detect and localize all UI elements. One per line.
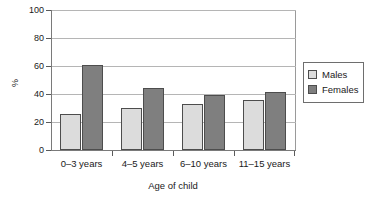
x-axis-tick-labels: 0–3 years4–5 years6–10 years11–15 years (45, 158, 301, 172)
bar-females-2[interactable] (204, 95, 225, 150)
legend-label-males: Males (322, 69, 347, 80)
legend-label-females: Females (322, 84, 358, 95)
bar-females-3[interactable] (265, 92, 286, 150)
y-axis-tick-label: 20 (18, 118, 44, 127)
bar-group (113, 10, 174, 150)
bar-males-2[interactable] (182, 104, 203, 150)
bar-males-0[interactable] (60, 114, 81, 150)
bar-males-1[interactable] (121, 108, 142, 150)
y-axis-tick-label: 100 (18, 6, 44, 15)
x-axis-tick-mark (234, 151, 235, 156)
x-axis-title: Age of child (51, 180, 295, 192)
plot-area (51, 10, 296, 151)
y-axis-tick-label: 60 (18, 62, 44, 71)
x-axis-tick-label: 11–15 years (204, 158, 326, 170)
bar-group (235, 10, 296, 150)
x-axis-tick-mark (294, 151, 295, 156)
bars-layer (52, 10, 296, 150)
bar-group (174, 10, 235, 150)
x-axis-tick-mark (112, 151, 113, 156)
legend-item-females[interactable]: Females (308, 82, 358, 97)
legend-swatch-males-icon (308, 70, 317, 79)
bar-females-0[interactable] (82, 65, 103, 150)
bar-group (52, 10, 113, 150)
y-axis-tick-label: 0 (18, 146, 44, 155)
bar-females-1[interactable] (143, 88, 164, 150)
x-axis-tick-mark (173, 151, 174, 156)
legend-item-males[interactable]: Males (308, 67, 358, 82)
chart-legend: Males Females (303, 62, 364, 103)
y-axis-tick-labels: 020406080100 (18, 10, 44, 150)
legend-swatch-females-icon (308, 85, 317, 94)
bar-males-3[interactable] (243, 100, 264, 150)
bar-chart: % 020406080100 0–3 years4–5 years6–10 ye… (0, 0, 372, 203)
y-axis-tick-label: 80 (18, 34, 44, 43)
x-axis-tick-marks (51, 151, 295, 156)
y-axis-tick-label: 40 (18, 90, 44, 99)
